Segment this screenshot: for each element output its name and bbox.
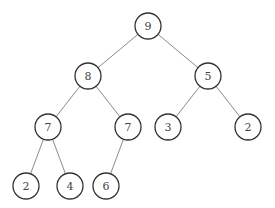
tree-edge-7-6: [111, 139, 124, 174]
node-label: 3: [165, 121, 172, 134]
node-label: 8: [85, 70, 92, 83]
tree-edge-7-2: [31, 139, 44, 174]
tree-edge-5-2: [216, 86, 240, 117]
node-label: 7: [45, 121, 52, 134]
tree-edge-9-5: [158, 34, 198, 67]
tree-node: 7: [115, 114, 141, 140]
tree-edge-8-7: [56, 86, 80, 117]
tree-edge-7-4: [53, 139, 66, 174]
node-label: 9: [145, 20, 152, 33]
tree-node: 3: [155, 114, 181, 140]
node-label: 6: [103, 180, 110, 193]
node-label: 7: [125, 121, 132, 134]
tree-edge-5-3: [176, 86, 200, 117]
tree-node: 6: [93, 173, 119, 199]
tree-node: 9: [135, 13, 161, 39]
tree-node: 8: [75, 63, 101, 89]
tree-node: 2: [235, 114, 261, 140]
node-label: 5: [205, 70, 212, 83]
tree-diagram: 9857732246: [0, 0, 275, 208]
tree-node: 7: [35, 114, 61, 140]
tree-node: 2: [13, 173, 39, 199]
node-label: 2: [245, 121, 252, 134]
tree-edges: [31, 34, 240, 173]
node-label: 2: [23, 180, 30, 193]
tree-edge-9-8: [98, 34, 138, 67]
node-label: 4: [67, 180, 74, 193]
tree-node: 5: [195, 63, 221, 89]
tree-nodes: 9857732246: [13, 13, 261, 199]
tree-node: 4: [57, 173, 83, 199]
tree-edge-8-7: [96, 86, 120, 117]
